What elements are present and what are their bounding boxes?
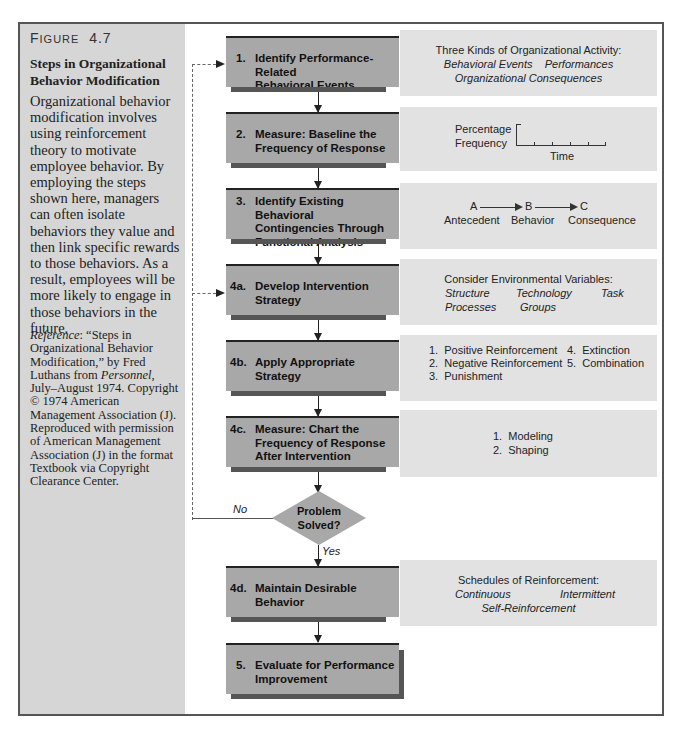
arrow-icon xyxy=(318,472,319,492)
step-4c: 4c. Measure: Chart theFrequency of Respo… xyxy=(226,416,399,467)
arrow-icon xyxy=(318,396,319,416)
info-environment: Consider Environmental Variables: Struct… xyxy=(400,259,657,325)
feedback-line xyxy=(192,64,193,520)
arrow-icon xyxy=(318,622,319,642)
arrow-icon xyxy=(318,168,319,188)
arrow-icon xyxy=(318,320,319,340)
yes-label: Yes xyxy=(322,545,340,557)
arrow-icon xyxy=(318,545,319,566)
figure-description: Organizational behavior modification inv… xyxy=(30,93,182,336)
feedback-line-top xyxy=(192,64,216,65)
info-methods: 1. Modeling 2. Shaping xyxy=(400,410,657,477)
info-activity: Three Kinds of Organizational Activity: … xyxy=(400,30,657,96)
figure-label: FIGURE 4.7 xyxy=(30,30,112,46)
arrow-icon xyxy=(216,60,225,68)
feedback-line-mid xyxy=(192,293,216,294)
step-4b: 4b. Apply AppropriateStrategy xyxy=(226,340,399,391)
decision-label: ProblemSolved? xyxy=(272,505,366,532)
info-baseline: Percentage Frequency Time xyxy=(400,107,657,171)
figure-title: Steps in Organizational Behavior Modific… xyxy=(30,55,180,89)
step-4a: 4a. Develop InterventionStrategy xyxy=(226,264,399,315)
arrow-icon xyxy=(318,244,319,264)
step-3: 3. Identify Existing BehavioralContingen… xyxy=(226,188,399,239)
info-abc: A B C Antecedent Behavior Consequence xyxy=(400,183,657,249)
figure-reference: Reference: “Steps in Organizational Beha… xyxy=(30,329,182,489)
arrow-icon xyxy=(216,289,225,297)
no-label: No xyxy=(233,503,247,515)
step-5: 5. Evaluate for PerformanceImprovement xyxy=(226,643,399,694)
arrow-icon xyxy=(318,92,319,112)
info-strategies: 1. Positive Reinforcement 2. Negative Re… xyxy=(400,335,657,401)
step-4d: 4d. Maintain DesirableBehavior xyxy=(226,566,399,617)
info-schedules: Schedules of Reinforcement: Continuous I… xyxy=(400,560,657,626)
step-1: 1. Identify Performance-RelatedBehaviora… xyxy=(226,36,399,87)
step-2: 2. Measure: Baseline theFrequency of Res… xyxy=(226,112,399,163)
